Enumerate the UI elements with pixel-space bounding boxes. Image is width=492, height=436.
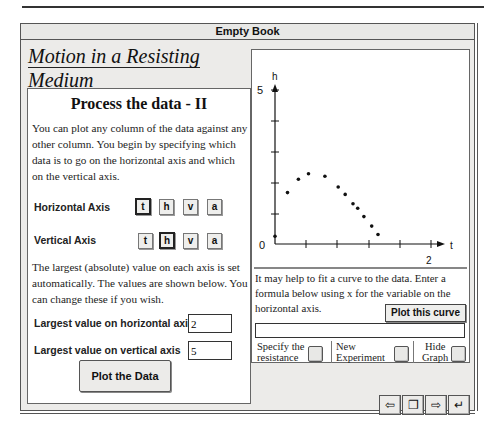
max-vertical-label: Largest value on vertical axis (34, 344, 181, 356)
specify-resistance-checkbox[interactable] (308, 346, 323, 362)
horizontal-axis-a-button[interactable]: a (207, 199, 222, 215)
book-window: Empty Book Motion in a Resisting Medium … (20, 23, 475, 411)
hide-graph-checkbox[interactable] (451, 346, 466, 362)
x-axis-arrow-icon (437, 241, 445, 247)
x-axis-label: t (450, 240, 453, 251)
max-horizontal-label: Largest value on horizontal axis (34, 317, 194, 329)
hide-graph-label-1: Hide (425, 341, 445, 352)
new-experiment-label-1: New (336, 341, 356, 352)
top-divider (22, 6, 484, 8)
hide-graph-label-2: Graph (422, 352, 448, 363)
y-axis-label: h (272, 71, 278, 82)
specify-resistance-label-1: Specify the (257, 341, 305, 352)
lesson-title: Motion in a Resisting Medium (28, 44, 218, 92)
window-title: Empty Book (21, 24, 474, 40)
contents-icon: ❐ (408, 398, 419, 412)
vertical-axis-v-button[interactable]: v (183, 233, 198, 249)
data-point (376, 233, 380, 237)
hide-graph-option[interactable]: HideGraph (422, 341, 468, 363)
return-arrow-icon: ↵ (454, 398, 464, 412)
max-vertical-input[interactable] (188, 341, 232, 360)
next-button[interactable]: ⇨ (425, 395, 447, 415)
data-point (362, 215, 366, 219)
formula-input[interactable] (255, 323, 465, 338)
x-max-label: 2 (426, 255, 432, 266)
data-point (307, 172, 311, 176)
back-arrow-icon: ⇦ (385, 398, 395, 412)
next-arrow-icon: ⇨ (431, 398, 441, 412)
origin-label: 0 (259, 239, 265, 251)
contents-button[interactable]: ❐ (402, 395, 424, 415)
largest-value-note: The largest (absolute) value on each axi… (32, 259, 248, 307)
panel-heading: Process the data - II (28, 95, 250, 113)
data-point (323, 174, 327, 178)
plot-data-button[interactable]: Plot the Data (79, 360, 171, 392)
plot-curve-button[interactable]: Plot this curve (385, 304, 466, 322)
vertical-axis-t-button[interactable]: t (138, 233, 153, 249)
data-point (370, 224, 374, 228)
horizontal-axis-label: Horizontal Axis (34, 201, 110, 213)
data-point (351, 202, 355, 206)
new-experiment-option[interactable]: NewExperiment (336, 341, 410, 363)
intro-text: You can plot any column of the data agai… (32, 120, 248, 184)
data-point (273, 235, 277, 239)
new-experiment-label-2: Experiment (336, 352, 385, 363)
horizontal-axis-h-button[interactable]: h (159, 199, 174, 215)
max-horizontal-input[interactable] (188, 314, 232, 333)
data-point (336, 185, 340, 189)
graph-panel: h 5 0 t 2 It may help to fit a curve to … (251, 49, 470, 363)
data-points (273, 172, 380, 238)
option-separator (413, 341, 414, 363)
specify-resistance-option[interactable]: Specify theresistance (257, 341, 323, 363)
y-axis-arrow-icon (272, 84, 278, 92)
data-point (356, 207, 360, 211)
horizontal-axis-v-button[interactable]: v (183, 199, 198, 215)
data-point (286, 191, 290, 195)
process-data-panel: Process the data - II You can plot any c… (27, 88, 251, 404)
data-point (343, 193, 347, 197)
return-button[interactable]: ↵ (448, 395, 470, 415)
data-point (297, 178, 301, 182)
vertical-axis-a-button[interactable]: a (207, 233, 222, 249)
y-max-label: 5 (257, 84, 263, 96)
back-button[interactable]: ⇦ (379, 395, 401, 415)
specify-resistance-label-2: resistance (257, 352, 298, 363)
vertical-axis-h-button[interactable]: h (159, 232, 175, 249)
option-separator (331, 341, 332, 363)
scatter-plot: h 5 0 t 2 (252, 50, 469, 270)
horizontal-axis-t-button[interactable]: t (135, 198, 151, 215)
new-experiment-checkbox[interactable] (394, 346, 409, 362)
vertical-axis-label: Vertical Axis (34, 234, 96, 246)
